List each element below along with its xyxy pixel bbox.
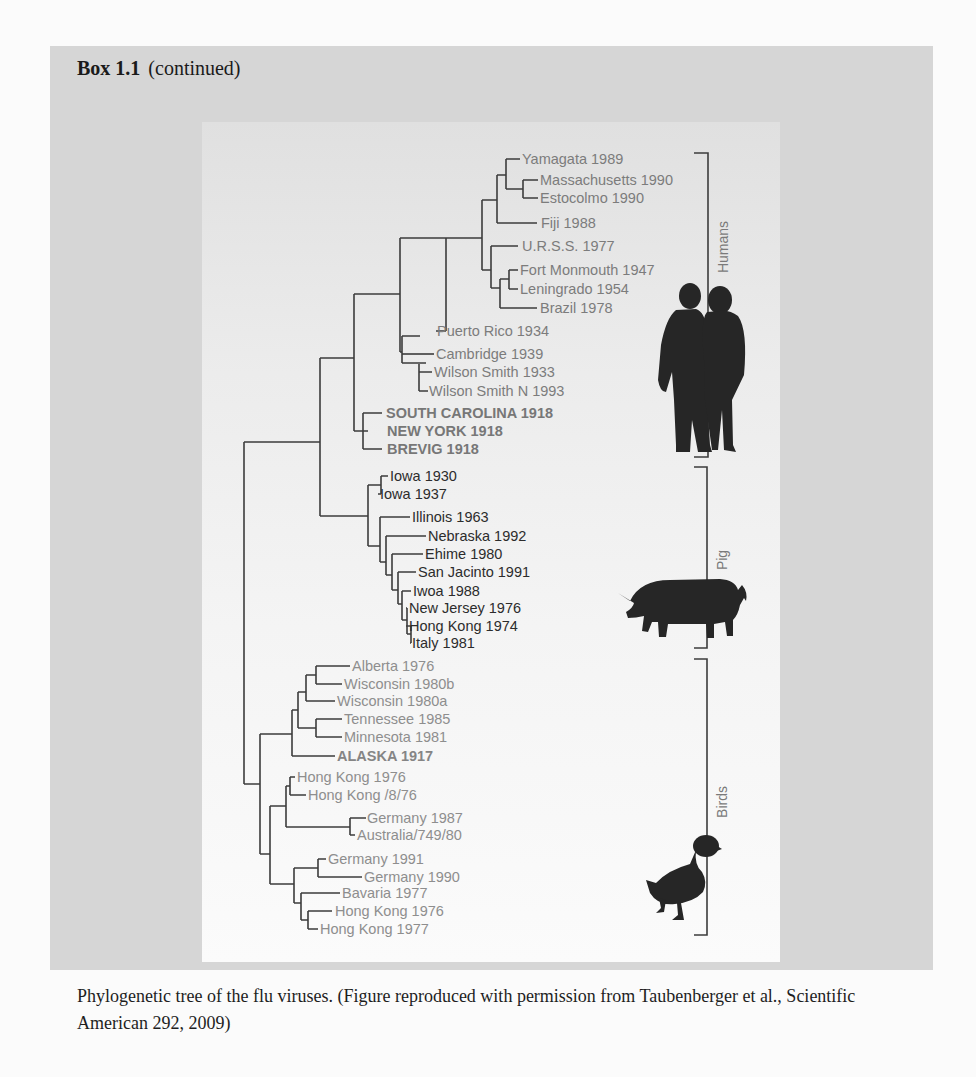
strain-label-1918: BREVIG 1918: [387, 441, 479, 457]
strain-label: Massachusetts 1990: [540, 172, 673, 188]
strain-label: U.R.S.S. 1977: [522, 238, 615, 254]
strain-label: Tennessee 1985: [344, 711, 450, 727]
strain-label: Hong Kong 1974: [409, 618, 518, 634]
strain-label: Iwoa 1988: [413, 583, 480, 599]
strain-label: Germany 1991: [328, 851, 424, 867]
strain-label: Fort Monmouth 1947: [520, 262, 655, 278]
figure-caption: Phylogenetic tree of the flu viruses. (F…: [77, 983, 917, 1037]
strain-label: Hong Kong 1977: [320, 921, 429, 937]
strain-label: Nebraska 1992: [428, 528, 526, 544]
strain-label: Minnesota 1981: [344, 729, 447, 745]
strain-label: Estocolmo 1990: [540, 190, 644, 206]
group-label-birds: Birds: [714, 786, 730, 818]
strain-label: Hong Kong 1976: [335, 903, 444, 919]
phylogenetic-tree: Humans Pig Birds Yamagata 1989 Massachus…: [0, 0, 976, 1077]
pig-strain-labels: Iowa 1930 Iowa 1937 Illinois 1963 Nebras…: [380, 468, 530, 651]
strain-label: Puerto Rico 1934: [437, 323, 549, 339]
bird-strain-labels: Alberta 1976 Wisconsin 1980b Wisconsin 1…: [297, 658, 463, 937]
strain-label: Wisconsin 1980b: [344, 676, 454, 692]
strain-label: Leningrado 1954: [520, 281, 629, 297]
group-label-pig: Pig: [714, 550, 730, 570]
strain-label: Bavaria 1977: [342, 885, 427, 901]
strain-label: ALASKA 1917: [337, 748, 433, 764]
strain-label: Italy 1981: [412, 635, 475, 651]
strain-label: Wilson Smith 1933: [434, 364, 555, 380]
strain-label: Yamagata 1989: [522, 151, 623, 167]
group-label-humans: Humans: [715, 221, 731, 273]
group-brackets: [694, 153, 708, 935]
strain-label: Australia/749/80: [357, 827, 462, 843]
strain-label: Ehime 1980: [425, 546, 502, 562]
strain-label: Wilson Smith N 1993: [429, 383, 564, 399]
duck-icon: [646, 835, 722, 920]
strain-label: San Jacinto 1991: [418, 564, 530, 580]
strain-label: Germany 1990: [364, 869, 460, 885]
strain-label: Iowa 1930: [390, 468, 457, 484]
strain-label: Brazil 1978: [540, 300, 613, 316]
strain-label: Alberta 1976: [352, 658, 434, 674]
strain-label: Germany 1987: [367, 810, 463, 826]
strain-label: Hong Kong /8/76: [308, 787, 417, 803]
strain-label: Iowa 1937: [380, 486, 447, 502]
strain-label-1918: SOUTH CAROLINA 1918: [386, 405, 553, 421]
strain-label: Illinois 1963: [412, 509, 489, 525]
strain-label: Hong Kong 1976: [297, 769, 406, 785]
strain-label: Cambridge 1939: [436, 346, 543, 362]
strain-label-1918: NEW YORK 1918: [387, 423, 503, 439]
human-couple-icon: [658, 283, 745, 452]
strain-label: New Jersey 1976: [409, 600, 521, 616]
strain-label: Fiji 1988: [541, 215, 596, 231]
strain-label: Wisconsin 1980a: [337, 693, 448, 709]
pig-icon: [618, 579, 747, 638]
human-strain-labels: Yamagata 1989 Massachusetts 1990 Estocol…: [386, 151, 673, 457]
